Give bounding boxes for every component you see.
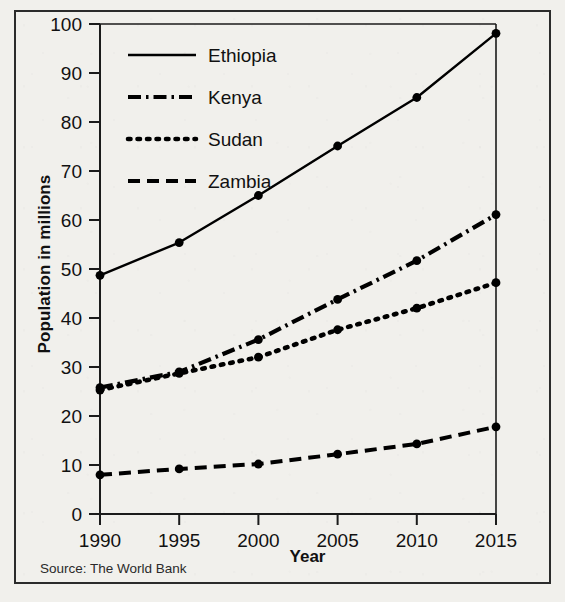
data-point-marker — [175, 465, 184, 474]
y-tick-label: 60 — [61, 210, 82, 231]
legend-label: Kenya — [208, 87, 262, 108]
data-point-marker — [254, 353, 263, 362]
data-point-marker — [412, 256, 421, 265]
data-point-marker — [492, 210, 501, 219]
y-axis-ticks: 0102030405060708090100 — [50, 14, 100, 525]
data-point-marker — [333, 325, 342, 334]
data-point-marker — [175, 238, 184, 247]
x-axis-ticks: 199019952000200520102015 — [79, 514, 517, 551]
data-point-marker — [333, 295, 342, 304]
series-ethiopia — [96, 29, 501, 280]
data-point-marker — [96, 386, 105, 395]
y-tick-label: 30 — [61, 357, 82, 378]
source-note: Source: The World Bank — [40, 561, 187, 576]
legend-item-kenya: Kenya — [128, 87, 262, 108]
data-point-marker — [412, 93, 421, 102]
data-point-marker — [96, 271, 105, 280]
legend-item-zambia: Zambia — [128, 171, 272, 192]
data-point-marker — [254, 335, 263, 344]
figure-border: 0102030405060708090100 19901995200020052… — [14, 10, 551, 584]
scanned-page: 0102030405060708090100 19901995200020052… — [0, 0, 565, 602]
series-zambia — [96, 422, 501, 479]
series-line — [100, 215, 496, 388]
data-point-marker — [254, 460, 263, 469]
data-point-marker — [333, 450, 342, 459]
data-point-marker — [492, 29, 501, 38]
data-point-marker — [492, 278, 501, 287]
data-point-marker — [412, 304, 421, 313]
data-point-marker — [412, 440, 421, 449]
legend-item-sudan: Sudan — [128, 129, 263, 150]
y-axis-title: Population in millions — [35, 159, 55, 369]
y-tick-label: 70 — [61, 161, 82, 182]
data-point-marker — [333, 142, 342, 151]
legend-label: Ethiopia — [208, 45, 277, 66]
chart-legend: EthiopiaKenyaSudanZambia — [128, 45, 277, 192]
series-line — [100, 33, 496, 275]
series-line — [100, 427, 496, 475]
line-chart: 0102030405060708090100 19901995200020052… — [16, 12, 553, 586]
data-point-marker — [254, 191, 263, 200]
data-point-marker — [96, 470, 105, 479]
y-tick-label: 20 — [61, 406, 82, 427]
data-point-marker — [175, 369, 184, 378]
y-tick-label: 100 — [50, 14, 82, 35]
legend-label: Sudan — [208, 129, 263, 150]
y-tick-label: 90 — [61, 63, 82, 84]
x-axis-title-text: Year — [290, 547, 326, 566]
y-tick-label: 0 — [71, 504, 82, 525]
legend-label: Zambia — [208, 171, 272, 192]
y-tick-label: 10 — [61, 455, 82, 476]
series-sudan — [96, 278, 501, 394]
legend-item-ethiopia: Ethiopia — [128, 45, 277, 66]
y-tick-label: 50 — [61, 259, 82, 280]
y-tick-label: 80 — [61, 112, 82, 133]
data-point-marker — [492, 422, 501, 431]
y-tick-label: 40 — [61, 308, 82, 329]
chart-figure: 0102030405060708090100 19901995200020052… — [16, 12, 553, 586]
